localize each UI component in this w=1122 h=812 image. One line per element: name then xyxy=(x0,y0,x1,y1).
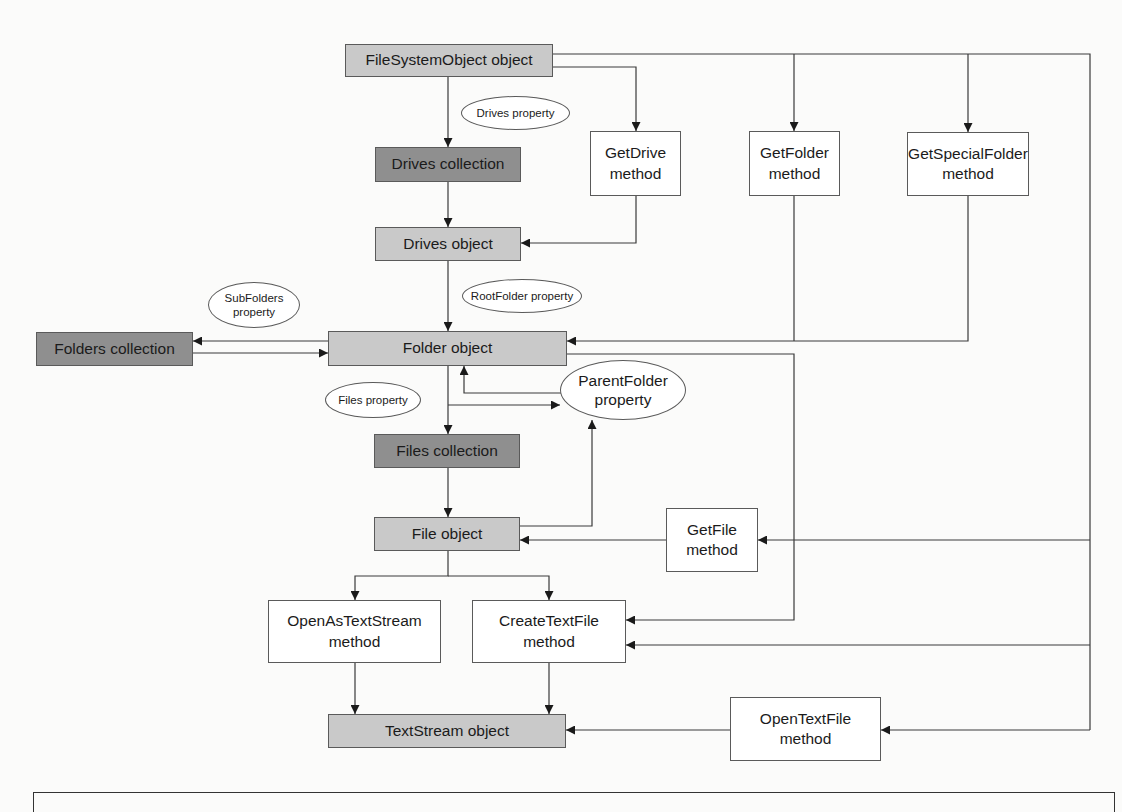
label-drives-property: Drives property xyxy=(461,96,570,130)
node-drives-collection: Drives collection xyxy=(375,147,521,182)
caption-frame xyxy=(33,792,1115,812)
label-files-property: Files property xyxy=(325,382,421,418)
label-subfolders-property: SubFolders property xyxy=(208,282,300,328)
node-getdrive-method: GetDrive method xyxy=(590,131,681,196)
node-filesystemobject-object: FileSystemObject object xyxy=(345,44,553,77)
node-getfile-method: GetFile method xyxy=(666,508,758,572)
node-createtextfile-method: CreateTextFile method xyxy=(472,600,626,663)
label-rootfolder-property: RootFolder property xyxy=(462,279,582,313)
node-folder-object: Folder object xyxy=(328,331,567,366)
node-opentextfile-method: OpenTextFile method xyxy=(730,697,881,761)
node-files-collection: Files collection xyxy=(374,434,520,468)
node-getspecialfolder-method: GetSpecialFolder method xyxy=(907,132,1029,196)
node-openastextstream-method: OpenAsTextStream method xyxy=(268,600,441,663)
label-parentfolder-property: ParentFolder property xyxy=(560,360,686,420)
node-drives-object: Drives object xyxy=(375,227,521,261)
node-textstream-object: TextStream object xyxy=(328,714,566,748)
node-file-object: File object xyxy=(374,517,520,551)
node-folders-collection: Folders collection xyxy=(36,332,193,366)
node-getfolder-method: GetFolder method xyxy=(749,131,840,196)
